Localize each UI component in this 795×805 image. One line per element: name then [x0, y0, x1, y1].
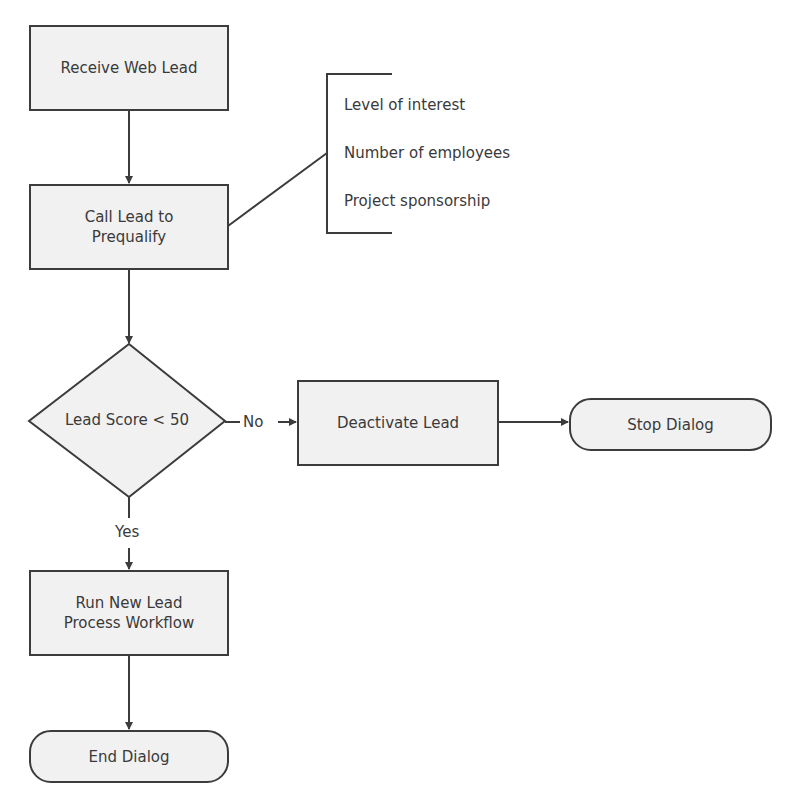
- edge-label-yes: Yes: [115, 523, 139, 541]
- node-run-new-lead-process-workflow[interactable]: Run New Lead Process Workflow: [29, 570, 229, 656]
- node-decision-lead-score[interactable]: Lead Score < 50: [29, 411, 225, 429]
- node-receive-web-lead[interactable]: Receive Web Lead: [29, 25, 229, 111]
- node-label-line-2: Process Workflow: [64, 613, 195, 633]
- node-label-line-1: Call Lead to: [85, 207, 174, 227]
- node-label: Receive Web Lead: [61, 58, 198, 78]
- node-label-line-2: Prequalify: [92, 227, 166, 247]
- node-deactivate-lead[interactable]: Deactivate Lead: [297, 380, 499, 466]
- annotation-item-level-of-interest: Level of interest: [344, 96, 465, 114]
- flowchart-canvas: Receive Web Lead Call Lead to Prequalify…: [0, 0, 795, 805]
- annotation-connector: [228, 153, 327, 226]
- node-call-lead-to-prequalify[interactable]: Call Lead to Prequalify: [29, 184, 229, 270]
- node-label-line-1: Run New Lead: [75, 593, 182, 613]
- node-label: Deactivate Lead: [337, 413, 459, 433]
- node-label: Lead Score < 50: [65, 411, 189, 429]
- annotation-item-project-sponsorship: Project sponsorship: [344, 192, 490, 210]
- node-stop-dialog[interactable]: Stop Dialog: [569, 398, 772, 451]
- edge-label-no: No: [243, 413, 263, 431]
- node-end-dialog[interactable]: End Dialog: [29, 730, 229, 783]
- node-label: End Dialog: [88, 747, 169, 767]
- annotation-item-number-of-employees: Number of employees: [344, 144, 510, 162]
- node-label: Stop Dialog: [627, 415, 714, 435]
